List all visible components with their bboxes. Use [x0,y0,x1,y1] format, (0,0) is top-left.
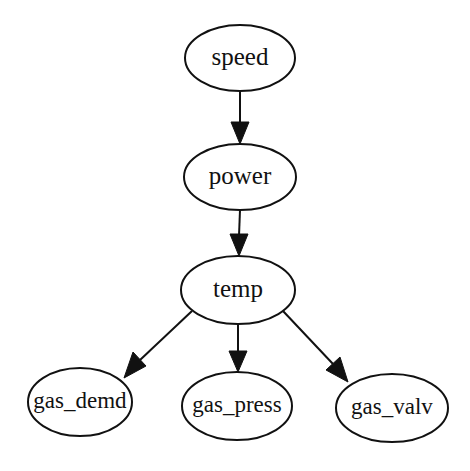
edge-temp-gas_valv [283,311,348,382]
node-label-temp: temp [213,275,263,302]
node-power[interactable]: power [184,144,296,210]
node-label-gas_valv: gas_valv [351,394,433,419]
edge-speed-power [231,91,249,144]
node-gas_demd[interactable]: gas_demd [28,368,132,436]
graph-svg: speed power temp gas_demd gas_press gas_… [0,0,470,471]
node-label-speed: speed [212,43,269,70]
diagram-canvas: speed power temp gas_demd gas_press gas_… [0,0,470,471]
arrowhead-icon [229,351,247,372]
arrowhead-icon [230,234,248,256]
node-gas_valv[interactable]: gas_valv [336,374,448,442]
edge-temp-gas_demd [124,311,192,378]
edge-power-temp [230,210,248,256]
edges [124,91,348,382]
arrowhead-icon [124,352,146,378]
node-label-power: power [209,162,272,189]
node-label-gas_press: gas_press [192,392,281,417]
arrowhead-icon [231,122,249,144]
node-label-gas_demd: gas_demd [33,388,127,413]
node-temp[interactable]: temp [181,256,295,324]
node-speed[interactable]: speed [185,25,295,91]
edge-temp-gas_press [229,324,247,372]
node-gas_press[interactable]: gas_press [182,372,292,440]
